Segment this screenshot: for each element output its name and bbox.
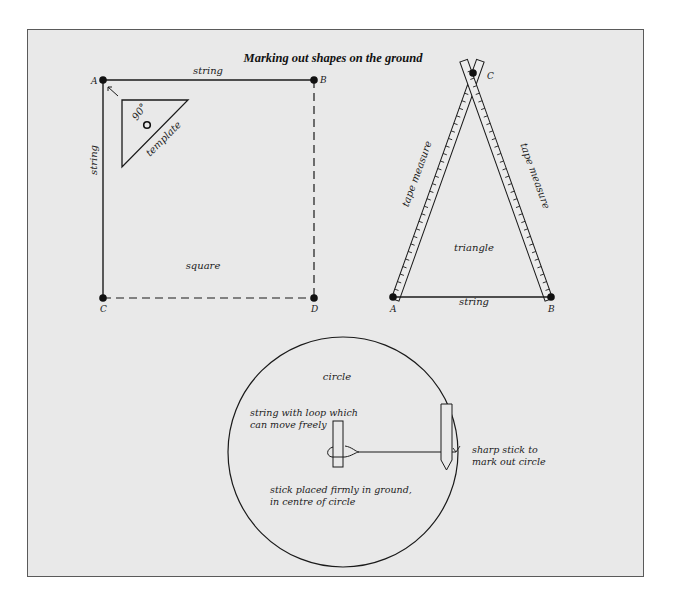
diagram-title: Marking out shapes on the ground [243, 51, 424, 65]
centre-note-line2: in centre of circle [270, 496, 356, 507]
triangle-point-b: B [547, 304, 555, 314]
diagram-canvas: Marking out shapes on the ground A B C D… [0, 0, 674, 605]
point-d-dot [310, 294, 318, 302]
centre-stick [333, 421, 343, 467]
string-knot [453, 446, 460, 452]
template-triangle [122, 100, 188, 167]
point-b-dot [310, 76, 318, 84]
point-a-dot [99, 76, 107, 84]
sharp-note-line1: sharp stick to [472, 444, 538, 455]
triangle-point-a: A [389, 304, 397, 314]
template-set-square: 90° template [108, 87, 188, 167]
arrow-icon [108, 87, 118, 96]
square-point-c: C [100, 304, 107, 314]
square-label: square [186, 260, 221, 271]
triangle-point-c: C [487, 71, 494, 81]
triangle-figure: A B C string triangle tape measure tape … [389, 59, 555, 314]
triangle-base-string-label: string [459, 296, 489, 307]
square-point-a: A [90, 76, 98, 86]
loop-note-line1: string with loop which [250, 407, 358, 418]
sharp-stick [441, 404, 452, 470]
square-figure: A B C D string string square 90° templat… [88, 65, 327, 314]
right-tape-label: tape measure [518, 141, 552, 210]
square-point-d: D [310, 304, 318, 314]
square-point-b: B [319, 75, 327, 85]
triangle-point-b-dot [547, 293, 555, 301]
triangle-point-a-dot [389, 293, 397, 301]
left-tape-measure [391, 59, 484, 301]
centre-note-line1: stick placed firmly in ground, [270, 484, 412, 495]
template-hole [144, 122, 151, 129]
triangle-label: triangle [454, 242, 494, 253]
loop-note-line2: can move freely [250, 419, 327, 430]
square-top-string-label: string [193, 65, 223, 76]
sharp-note-line2: mark out circle [472, 456, 546, 467]
circle-label: circle [323, 371, 351, 382]
square-left-string-label: string [88, 145, 99, 175]
circle-figure: circle string with loop which can move f… [228, 337, 546, 567]
point-c-dot [99, 294, 107, 302]
triangle-point-c-dot [469, 69, 477, 77]
template-angle-label: 90° [130, 101, 149, 122]
